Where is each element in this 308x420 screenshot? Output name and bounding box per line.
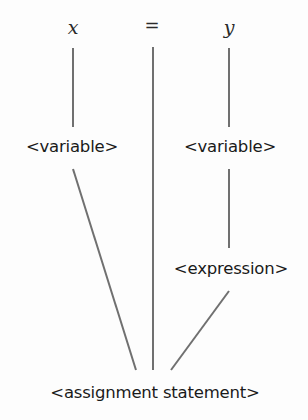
terminal-x: x: [68, 16, 79, 38]
edge-expression-to-assignment: [171, 291, 229, 370]
nonterminal-expression: <expression>: [174, 259, 288, 278]
parse-tree-diagram: x = y <variable> <variable> <expression>…: [0, 0, 308, 420]
edge-variable-to-assignment: [73, 169, 136, 370]
tree-edges: [0, 0, 308, 420]
nonterminal-assignment-statement: <assignment statement>: [50, 383, 259, 402]
nonterminal-variable-right: <variable>: [184, 137, 276, 156]
terminal-equals: =: [144, 15, 159, 36]
terminal-y: y: [224, 16, 235, 38]
nonterminal-variable-left: <variable>: [26, 137, 118, 156]
